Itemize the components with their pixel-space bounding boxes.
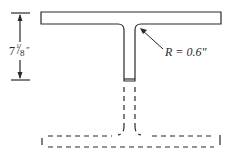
dimension-whole: 7 [9, 44, 15, 58]
dimension-arrow-up-icon [18, 14, 23, 21]
fillet-radius-label: R = 0.6″ [164, 45, 207, 59]
dashed-fillet-left [118, 126, 124, 135]
fillet-leader-line [142, 30, 163, 49]
dimension-unit: ″ [26, 45, 30, 55]
dimension-arrow-down-icon [18, 72, 23, 79]
tee-section-diagram: 7 1 8 ″ R = 0.6″ [0, 0, 236, 157]
dimension-fraction-den: 8 [20, 48, 25, 58]
dashed-fillet-right [135, 126, 141, 135]
